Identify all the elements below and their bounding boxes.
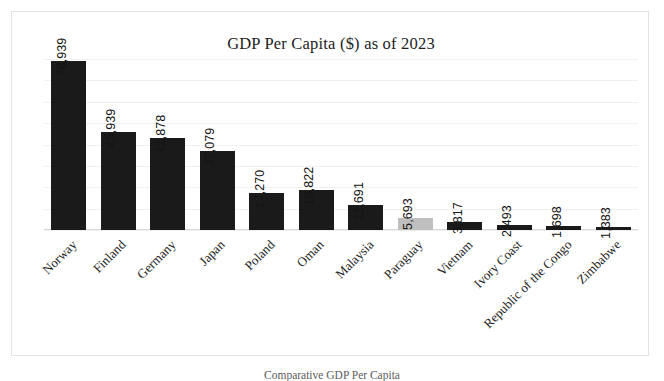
category-label-text: Paraguay (381, 237, 427, 283)
category-label-text: Malaysia (332, 237, 377, 282)
bar-value-text: 3,817 (451, 202, 465, 234)
figure-caption: Comparative GDP Per Capita (0, 369, 664, 381)
bar-slot: 1,698 (539, 59, 589, 230)
bar-slot: 42,878 (143, 59, 193, 230)
category-label-text: Vietnam (434, 237, 476, 279)
bar-slot: 1,383 (589, 59, 639, 230)
bar-value-text: 78,939 (55, 38, 69, 77)
category-label-text: Germany (134, 237, 180, 283)
bar-value-text: 11,691 (352, 182, 366, 220)
chart-title: GDP Per Capita ($) as of 2023 (12, 34, 650, 54)
category-label-text: Zimbabwe (574, 237, 625, 288)
bar-value-text: 45,939 (104, 108, 118, 147)
bar-slot: 45,939 (94, 59, 144, 230)
gridline (44, 230, 638, 231)
category-label-text: Oman (294, 237, 328, 271)
bar-slot: 17,270 (242, 59, 292, 230)
x-axis-category-labels: NorwayFinlandGermanyJapanPolandOmanMalay… (44, 233, 638, 353)
bar-value-text: 17,270 (253, 170, 267, 209)
bar-slot: 2,493 (490, 59, 540, 230)
category-label-text: Finland (90, 237, 129, 276)
category-label-text: Norway (39, 237, 80, 278)
category-label-text: Republic of the Congo (480, 237, 575, 332)
bar-value-text: 18,822 (302, 166, 316, 205)
bar-value-text: 37,079 (203, 127, 217, 166)
bar-slot: 3,817 (440, 59, 490, 230)
bar-slot: 18,822 (292, 59, 342, 230)
category-label-text: Poland (241, 237, 278, 274)
bar-slot: 78,939 (44, 59, 94, 230)
bar-slot: 11,691 (341, 59, 391, 230)
bar-series: 78,93945,93942,87837,07917,27018,82211,6… (44, 59, 638, 230)
bar-value-text: 42,878 (154, 115, 168, 154)
bar-slot: 5,693 (391, 59, 441, 230)
bar-value-text: 2,493 (500, 205, 514, 237)
bar-slot: 37,079 (193, 59, 243, 230)
bar (51, 61, 86, 230)
category-label-text: Japan (196, 237, 228, 269)
bar-value-text: 5,693 (401, 198, 415, 230)
chart-frame: GDP Per Capita ($) as of 2023 78,93945,9… (11, 11, 649, 356)
